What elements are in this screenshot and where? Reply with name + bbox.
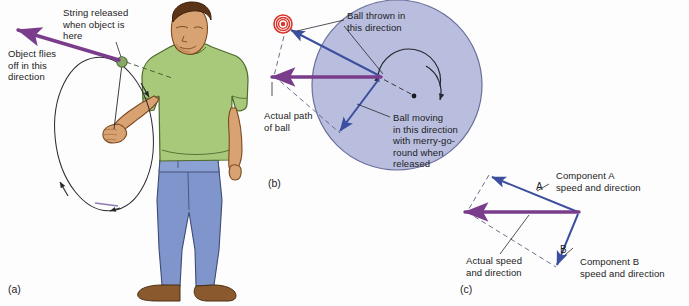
arm-hanging xyxy=(228,108,242,171)
path-arrow-left xyxy=(60,182,68,196)
label-actual-path: Actual path of ball xyxy=(264,110,313,133)
construction-line-c1 xyxy=(467,175,489,212)
label-actual-speed: Actual speed and direction xyxy=(466,255,522,278)
shoe-right xyxy=(194,285,236,301)
shoe-left xyxy=(138,285,180,301)
pants xyxy=(157,160,222,286)
leader-string-released xyxy=(116,42,121,57)
label-ball-moving: Ball moving in this direction with merry… xyxy=(393,112,458,170)
label-ball-thrown: Ball thrown in this direction xyxy=(347,10,405,33)
component-b-vector xyxy=(557,214,578,265)
panel-label-b: (b) xyxy=(268,177,281,189)
person-figure xyxy=(103,2,248,301)
target-bullseye xyxy=(274,15,292,33)
panel-a-group xyxy=(18,2,248,301)
label-string-released: String released when object is here xyxy=(63,7,128,42)
label-component-a: Component A speed and direction xyxy=(556,170,641,193)
panel-label-c: (c) xyxy=(460,283,472,295)
construction-line-1 xyxy=(274,28,286,76)
panel-label-a: (a) xyxy=(8,283,21,295)
fist xyxy=(103,124,127,143)
label-object-flies-off: Object flies off in this direction xyxy=(8,48,56,83)
merry-go-round-center xyxy=(412,94,417,99)
hand-hanging xyxy=(229,165,241,180)
path-highlight xyxy=(95,203,118,206)
label-component-b: Component B speed and direction xyxy=(580,256,665,279)
label-vector-a: A xyxy=(536,181,543,192)
label-vector-b: B xyxy=(560,244,567,255)
waistband xyxy=(159,160,219,172)
